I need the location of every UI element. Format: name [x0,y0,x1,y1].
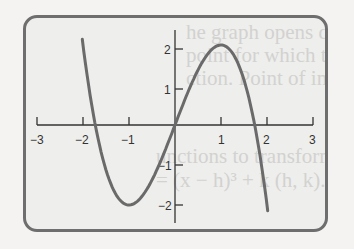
x-label--3: −3 [30,133,44,147]
x-label-2: 2 [263,133,270,147]
x-label-3: 3 [309,133,316,147]
x-label-1: 1 [218,133,225,147]
y-label--2: −2 [158,199,172,213]
y-label-1: 1 [164,83,171,97]
x-label--2: −2 [75,133,89,147]
x-label--1: −1 [121,133,135,147]
y-label-2: 2 [164,43,171,57]
y-ticks [175,49,183,205]
cubic-graph: −3 −2 −1 1 2 3 2 1 −1 −2 [0,0,354,249]
